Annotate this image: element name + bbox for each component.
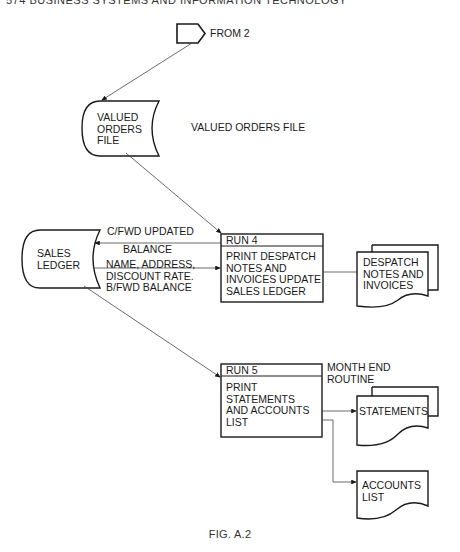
flow-line-valued-orders-to-run4	[126, 153, 221, 233]
sales-ledger-text: SALES LEDGER	[37, 248, 80, 271]
flow-label-balance: BALANCE	[123, 244, 172, 256]
run4-title: RUN 4	[226, 235, 258, 247]
flow-label-name-address: NAME, ADDRESS, DISCOUNT RATE. B/FWD BALA…	[106, 259, 195, 294]
figure-caption: FIG. A.2	[0, 528, 460, 540]
run5-title: RUN 5	[226, 365, 258, 377]
flow-label-cfwd: C/FWD UPDATED	[107, 226, 194, 238]
valued-orders-symbol-text: VALUED ORDERS FILE	[97, 112, 142, 147]
run5-note: MONTH END ROUTINE	[327, 362, 391, 385]
flow-line-from-connector	[102, 43, 192, 100]
valued-orders-side-label: VALUED ORDERS FILE	[191, 122, 305, 134]
despatch-text: DESPATCH NOTES AND INVOICES	[363, 257, 424, 292]
accounts-list-text: ACCOUNTS LIST	[362, 480, 421, 503]
connector-label: FROM 2	[210, 28, 250, 40]
run5-body: PRINT STATEMENTS AND ACCOUNTS LIST	[226, 382, 309, 428]
flow-line-run5-to-accounts	[322, 420, 356, 482]
flow-line-ledger-to-run5	[84, 286, 220, 377]
statements-text: STATEMENTS	[359, 406, 428, 418]
run4-body: PRINT DESPATCH NOTES AND INVOICES UPDATE…	[226, 251, 321, 297]
off-page-connector-icon	[177, 24, 205, 43]
